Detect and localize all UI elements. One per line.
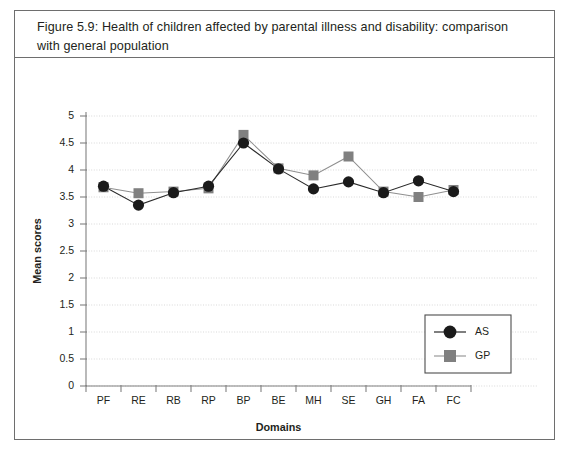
chart-legend: ASGP	[425, 315, 511, 373]
y-axis-tick-label: 3.5	[59, 190, 74, 202]
data-point-AS	[133, 200, 144, 211]
x-axis-tick-label: RP	[201, 394, 216, 406]
data-point-AS	[273, 163, 284, 174]
x-axis-tick-label: FC	[447, 394, 461, 406]
data-point-GP	[134, 188, 144, 198]
data-point-AS	[378, 187, 389, 198]
data-point-GP	[309, 170, 319, 180]
legend-label: GP	[475, 349, 490, 361]
x-axis-tick-label: RE	[131, 394, 146, 406]
legend-marker-square	[444, 350, 456, 362]
legend-marker-circle	[444, 326, 457, 339]
y-axis-title: Mean scores	[31, 218, 43, 283]
figure-container: Figure 5.9: Health of children affected …	[14, 10, 555, 440]
y-axis-tick-label: 3	[68, 217, 74, 229]
legend-box	[425, 315, 511, 373]
data-point-AS	[308, 183, 319, 194]
y-axis-tick-label: 5	[68, 109, 74, 121]
legend-label: AS	[475, 325, 489, 337]
y-axis-tick-label: 2	[68, 271, 74, 283]
data-point-AS	[203, 181, 214, 192]
x-axis-tick-label: BP	[236, 394, 250, 406]
y-axis-tick-label: 1.5	[59, 298, 74, 310]
x-axis-tick-label: GH	[376, 394, 392, 406]
y-axis-tick-label: 0	[68, 379, 74, 391]
x-axis-title: Domains	[256, 421, 302, 433]
figure-caption-band: Figure 5.9: Health of children affected …	[15, 11, 554, 58]
data-point-AS	[448, 186, 459, 197]
x-axis-tick-label: PF	[97, 394, 110, 406]
x-axis-tick-label: RB	[166, 394, 181, 406]
figure-caption: Figure 5.9: Health of children affected …	[37, 18, 527, 56]
y-axis: 00.511.522.533.544.55	[59, 109, 87, 391]
x-axis-tick-label: BE	[271, 394, 285, 406]
line-chart: 00.511.522.533.544.55Mean scoresPFRERBRP…	[15, 58, 554, 440]
data-point-AS	[98, 181, 109, 192]
y-axis-tick-label: 4.5	[59, 136, 74, 148]
x-axis-tick-label: SE	[341, 394, 355, 406]
y-axis-tick-label: 2.5	[59, 244, 74, 256]
data-point-AS	[413, 175, 424, 186]
y-axis-tick-label: 1	[68, 325, 74, 337]
x-axis-tick-label: MH	[305, 394, 321, 406]
data-point-AS	[343, 176, 354, 187]
x-axis-tick-label: FA	[412, 394, 425, 406]
figure-screenshot: Figure 5.9: Health of children affected …	[0, 0, 570, 463]
data-point-AS	[238, 137, 249, 148]
data-point-AS	[168, 187, 179, 198]
x-axis: PFRERBRPBPBEMHSEGHFAFC	[86, 385, 471, 406]
series-markers-AS	[98, 137, 459, 210]
data-point-GP	[344, 152, 354, 162]
y-axis-tick-label: 0.5	[59, 352, 74, 364]
data-point-GP	[414, 192, 424, 202]
y-axis-tick-label: 4	[68, 163, 74, 175]
chart-plot-area: 00.511.522.533.544.55Mean scoresPFRERBRP…	[15, 58, 554, 440]
